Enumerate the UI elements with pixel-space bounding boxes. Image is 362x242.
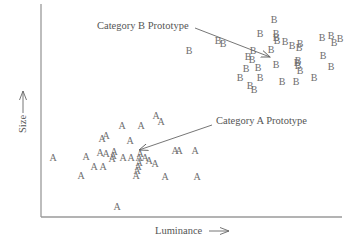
point-a: A	[49, 152, 57, 163]
axes	[41, 4, 342, 217]
point-a: A	[191, 145, 199, 156]
point-a: A	[132, 170, 140, 181]
point-b: B	[282, 36, 289, 47]
point-b: B	[271, 14, 278, 25]
x-axis-label: Luminance	[155, 225, 203, 236]
x-axis-title: Luminance	[155, 225, 229, 236]
annotation-b-label: Category B Prototype	[97, 20, 189, 31]
point-b: B	[243, 63, 250, 74]
point-b: B	[289, 40, 296, 51]
point-b: B	[328, 61, 335, 72]
point-a: A	[157, 116, 165, 127]
point-a: A	[82, 151, 90, 162]
scatter-chart: AAAAAAAAAAAAAAAAAAAAAAAAAAAAAAAAAABBBBBB…	[0, 0, 362, 242]
point-a: A	[119, 152, 127, 163]
point-b: B	[268, 44, 275, 55]
point-b: B	[279, 76, 286, 87]
data-points: AAAAAAAAAAAAAAAAAAAAAAAAAAAAAAAAAABBBBBB…	[49, 14, 343, 212]
point-a: A	[161, 171, 169, 182]
point-a: A	[77, 170, 85, 181]
point-a: A	[113, 201, 121, 212]
point-b: B	[251, 84, 258, 95]
point-a: A	[118, 120, 126, 131]
point-b: B	[337, 33, 344, 44]
point-a: A	[99, 161, 107, 172]
point-b: B	[319, 32, 326, 43]
y-axis-title: Size	[17, 91, 28, 133]
point-a: A	[90, 161, 98, 172]
point-a: A	[175, 145, 183, 156]
point-b: B	[320, 50, 327, 61]
point-b: B	[311, 72, 318, 83]
point-b: B	[257, 72, 264, 83]
point-b: B	[274, 35, 281, 46]
point-a: A	[102, 130, 110, 141]
point-a: A	[137, 120, 145, 131]
point-a: A	[151, 158, 159, 169]
point-b: B	[186, 45, 193, 56]
point-a: A	[193, 171, 201, 182]
point-b: B	[296, 42, 303, 53]
point-b: B	[331, 37, 338, 48]
y-axis-label: Size	[17, 115, 28, 133]
point-a: A	[108, 153, 116, 164]
point-a: A	[135, 157, 143, 168]
point-b: B	[297, 65, 304, 76]
point-b: B	[293, 76, 300, 87]
point-b: B	[273, 59, 280, 70]
annotation-a-label: Category A Prototype	[216, 115, 307, 126]
point-b: B	[257, 28, 264, 39]
point-b: B	[237, 72, 244, 83]
point-a: A	[126, 135, 134, 146]
